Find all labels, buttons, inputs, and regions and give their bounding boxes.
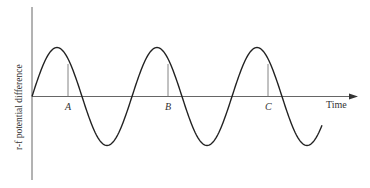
rf-potential-diagram: A B C Time r-f potential difference [0, 0, 370, 188]
x-axis-arrow-icon [349, 94, 358, 100]
marker-c-label: C [265, 101, 272, 112]
marker-b-label: B [165, 101, 171, 112]
y-axis-label: r-f potential difference [14, 64, 24, 150]
marker-a-label: A [64, 101, 72, 112]
x-axis-label: Time [326, 99, 347, 110]
